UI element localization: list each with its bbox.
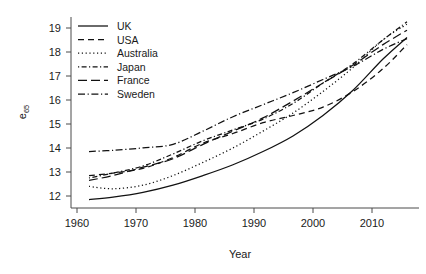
legend-label-uk: UK <box>117 20 132 32</box>
x-tick-label-2010: 2010 <box>360 217 384 229</box>
line-chart: 19 18 17 16 15 14 13 12 1960 1970 1980 1… <box>0 0 426 274</box>
y-tick-label-15: 15 <box>49 118 61 130</box>
y-tick-label-18: 18 <box>49 46 61 58</box>
legend-label-sweden: Sweden <box>117 88 155 100</box>
y-tick-label-19: 19 <box>49 22 61 34</box>
legend-label-japan: Japan <box>117 61 146 73</box>
x-axis-title: Year <box>229 248 252 260</box>
legend-label-france: France <box>117 74 150 86</box>
legend-label-australia: Australia <box>117 47 158 59</box>
y-tick-label-16: 16 <box>49 94 61 106</box>
figure-container: 19 18 17 16 15 14 13 12 1960 1970 1980 1… <box>0 0 426 274</box>
x-tick-label-1960: 1960 <box>65 217 89 229</box>
x-tick-label-2000: 2000 <box>301 217 325 229</box>
x-tick-label-1980: 1980 <box>183 217 207 229</box>
y-tick-label-13: 13 <box>49 166 61 178</box>
x-tick-label-1970: 1970 <box>124 217 148 229</box>
y-tick-label-17: 17 <box>49 70 61 82</box>
x-tick-label-1990: 1990 <box>242 217 266 229</box>
y-tick-label-12: 12 <box>49 190 61 202</box>
y-axis-title-subscript: 65 <box>22 105 31 113</box>
y-tick-label-14: 14 <box>49 142 61 154</box>
chart-background <box>0 0 426 274</box>
legend-label-usa: USA <box>117 34 139 46</box>
